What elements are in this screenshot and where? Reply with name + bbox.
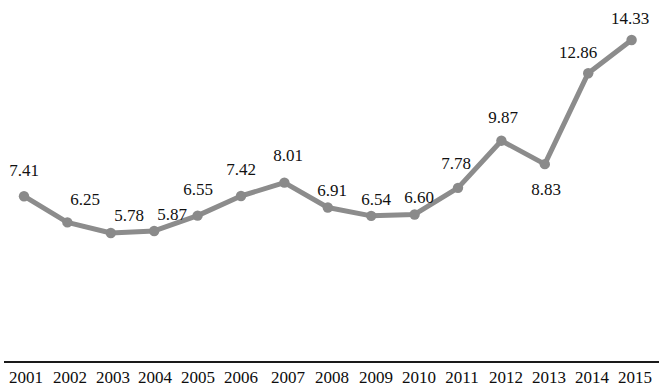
data-point-2004 — [149, 226, 159, 236]
x-tick-2005: 2005 — [181, 369, 215, 386]
x-tick-2006: 2006 — [224, 369, 258, 386]
data-point-2001 — [19, 191, 29, 201]
data-label-2010: 6.60 — [404, 189, 434, 206]
data-point-2013 — [540, 159, 550, 169]
data-label-2005: 6.55 — [183, 181, 213, 198]
series-marker-group — [19, 35, 637, 238]
data-point-2005 — [192, 210, 202, 220]
data-point-2012 — [496, 135, 506, 145]
data-point-2006 — [236, 191, 246, 201]
x-tick-2001: 2001 — [9, 369, 43, 386]
data-label-2011: 7.78 — [441, 155, 471, 172]
data-label-2004: 5.87 — [157, 206, 187, 223]
data-label-2008: 6.91 — [317, 182, 347, 199]
x-tick-2010: 2010 — [402, 369, 436, 386]
x-tick-2011: 2011 — [445, 369, 478, 386]
x-tick-2007: 2007 — [271, 369, 305, 386]
data-label-2003: 5.78 — [114, 207, 144, 224]
data-label-2012: 9.87 — [488, 109, 518, 126]
data-point-2002 — [62, 217, 72, 227]
data-label-2002: 6.25 — [70, 191, 100, 208]
x-tick-2004: 2004 — [138, 369, 172, 386]
data-point-2015 — [626, 35, 636, 45]
x-tick-2015: 2015 — [618, 369, 652, 386]
x-tick-2013: 2013 — [532, 369, 566, 386]
data-point-2011 — [453, 183, 463, 193]
data-label-2006: 7.42 — [226, 161, 256, 178]
x-axis-line — [4, 361, 659, 363]
data-point-2003 — [106, 228, 116, 238]
data-label-2001: 7.41 — [9, 162, 39, 179]
data-point-2009 — [366, 211, 376, 221]
data-label-2007: 8.01 — [273, 147, 303, 164]
data-label-2015: 14.33 — [611, 10, 649, 27]
data-point-2008 — [323, 202, 333, 212]
line-chart: 7.41 6.25 5.78 5.87 6.55 7.42 8.01 6.91 … — [0, 0, 664, 388]
x-tick-2003: 2003 — [96, 369, 130, 386]
x-tick-2009: 2009 — [359, 369, 393, 386]
data-point-2014 — [583, 68, 593, 78]
data-label-2014: 12.86 — [559, 44, 597, 61]
x-tick-2012: 2012 — [489, 369, 523, 386]
data-point-2007 — [279, 177, 289, 187]
x-tick-2008: 2008 — [315, 369, 349, 386]
data-point-2010 — [409, 209, 419, 219]
data-label-2009: 6.54 — [361, 191, 391, 208]
x-tick-2014: 2014 — [575, 369, 609, 386]
x-tick-2002: 2002 — [53, 369, 87, 386]
data-label-2013: 8.83 — [531, 181, 561, 198]
